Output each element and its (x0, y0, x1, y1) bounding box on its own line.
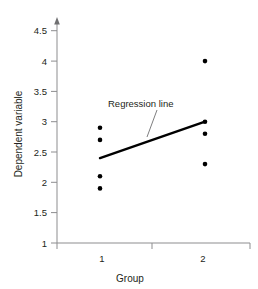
data-point (98, 174, 103, 179)
plot-canvas: 4.5 4 3.5 3 2.5 2 1.5 1 1 2 Group Depend… (0, 0, 258, 289)
data-point (98, 138, 103, 143)
y-axis-arrow-icon (54, 17, 60, 25)
y-axis-title: Dependent variable (13, 90, 24, 177)
data-point (203, 132, 208, 137)
data-point (98, 126, 103, 131)
scatter-plot-figure: 4.5 4 3.5 3 2.5 2 1.5 1 1 2 Group Depend… (0, 0, 258, 289)
y-tick-label-4-5: 4.5 (34, 25, 47, 36)
data-point (203, 59, 208, 64)
y-tick-label-2: 2 (42, 177, 47, 188)
regression-line (100, 122, 205, 158)
y-tick-label-1-5: 1.5 (34, 207, 47, 218)
data-point (98, 186, 103, 191)
y-tick-label-2-5: 2.5 (34, 147, 47, 158)
data-point (203, 119, 208, 124)
regression-line-annotation: Regression line (108, 98, 173, 109)
x-tick-label-group-1: 1 (99, 253, 104, 264)
y-tick-label-4: 4 (42, 56, 47, 67)
y-tick-label-3: 3 (42, 116, 47, 127)
x-axis-title: Group (116, 273, 144, 284)
x-tick-label-group-2: 2 (200, 253, 205, 264)
y-tick-label-1: 1 (42, 238, 47, 249)
data-point (203, 162, 208, 167)
y-tick-label-3-5: 3.5 (34, 86, 47, 97)
annotation-leader-line (147, 110, 157, 137)
